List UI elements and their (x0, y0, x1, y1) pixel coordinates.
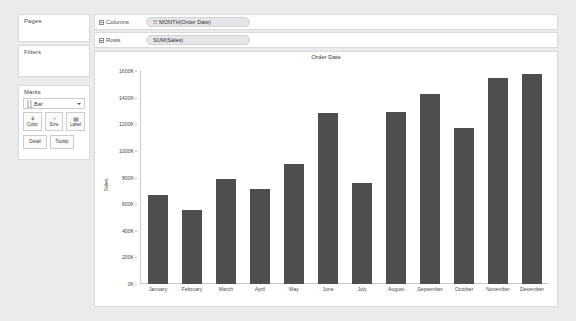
rows-shelf[interactable]: Rows SUM(Sales) (94, 32, 558, 48)
bar-december[interactable] (522, 74, 541, 284)
bar-october[interactable] (454, 128, 473, 284)
marks-card-title: Marks (19, 86, 89, 95)
pill-sum-sales-label: SUM(Sales) (153, 37, 183, 43)
pill-month-order-date-label: MONTH(Order Date) (159, 19, 211, 25)
rows-grid-icon (99, 38, 104, 43)
bar-january[interactable] (148, 195, 167, 284)
x-axis-tick-label: July (345, 286, 379, 298)
bar-slot (243, 71, 277, 284)
x-axis-tick-label: May (277, 286, 311, 298)
x-axis-tick-label: January (141, 286, 175, 298)
columns-shelf-label: Columns (106, 19, 129, 25)
color-button[interactable]: ⚘ Color (23, 112, 42, 131)
y-axis-tick-label: 1000K (119, 148, 134, 154)
pill-sum-sales[interactable]: SUM(Sales) (146, 35, 250, 45)
calendar-pill-icon: ☷ (153, 19, 157, 25)
x-axis-tick-label: August (379, 286, 413, 298)
filters-card[interactable]: Filters (18, 45, 90, 77)
mark-type-select[interactable]: ⎣⎣ Bar (23, 98, 85, 109)
bar-slot (515, 71, 549, 284)
bar-slot (209, 71, 243, 284)
bar-slot (141, 71, 175, 284)
y-axis-tick-label: 200K (122, 254, 134, 260)
y-axis-tick-label: 0K (128, 281, 134, 287)
size-button[interactable]: ◔ Size (45, 112, 64, 131)
color-palette-icon: ⚘ (30, 116, 35, 122)
rows-shelf-label: Rows (106, 37, 121, 43)
bar-slot (481, 71, 515, 284)
bar-march[interactable] (216, 179, 235, 284)
y-axis-ticks: 0K200K400K600K800K1000K1200K1400K1600K (105, 71, 137, 284)
marks-card[interactable]: Marks ⎣⎣ Bar ⚘ Color ◔ Size ▤ Label Deta… (18, 85, 90, 160)
detail-button-label: Detail (29, 139, 41, 144)
y-axis-tick-label: 1400K (119, 95, 134, 101)
marks-button-row-secondary: Detail Tooltip (19, 131, 89, 149)
color-button-label: Color (27, 122, 38, 127)
columns-shelf-label-group: Columns (99, 19, 141, 25)
plot-area: Sales 0K200K400K600K800K1000K1200K1400K1… (95, 63, 557, 306)
size-button-label: Size (50, 122, 59, 127)
detail-button[interactable]: Detail (23, 135, 47, 149)
bar-series (141, 71, 549, 284)
chart-title: Order Date (95, 52, 557, 62)
label-button[interactable]: ▤ Label (66, 112, 85, 131)
bar-slot (277, 71, 311, 284)
y-axis-tick-label: 1600K (119, 68, 134, 74)
label-icon: ▤ (73, 116, 79, 122)
label-button-label: Label (70, 122, 81, 127)
pages-card-title: Pages (19, 15, 89, 24)
x-axis-tick-label: September (413, 286, 447, 298)
marks-button-row-primary: ⚘ Color ◔ Size ▤ Label (19, 109, 89, 131)
x-axis-tick-label: October (447, 286, 481, 298)
bar-slot (175, 71, 209, 284)
bar-june[interactable] (318, 113, 337, 284)
bar-slot (311, 71, 345, 284)
x-axis-tick-label: December (515, 286, 549, 298)
pill-month-order-date[interactable]: ☷ MONTH(Order Date) (146, 17, 250, 27)
bar-february[interactable] (182, 210, 201, 284)
x-axis-tick-label: June (311, 286, 345, 298)
bar-slot (413, 71, 447, 284)
x-axis-tick-label: March (209, 286, 243, 298)
tooltip-button-label: Tooltip (55, 139, 68, 144)
bar-slot (447, 71, 481, 284)
bar-slot (379, 71, 413, 284)
x-axis-tick-label: November (481, 286, 515, 298)
y-axis-tick-label: 800K (122, 175, 134, 181)
columns-shelf[interactable]: Columns ☷ MONTH(Order Date) (94, 14, 558, 30)
chevron-down-icon[interactable] (77, 103, 81, 105)
filters-card-title: Filters (19, 46, 89, 55)
rows-shelf-label-group: Rows (99, 37, 141, 43)
viz-canvas[interactable]: Order Date Sales 0K200K400K600K800K1000K… (94, 51, 558, 307)
bar-may[interactable] (284, 164, 303, 284)
bar-august[interactable] (386, 112, 405, 284)
x-axis-tick-label: February (175, 286, 209, 298)
size-icon: ◔ (52, 116, 56, 122)
bar-slot (345, 71, 379, 284)
pages-card[interactable]: Pages (18, 14, 90, 42)
tooltip-button[interactable]: Tooltip (50, 135, 74, 149)
y-axis-tick-label: 1200K (119, 121, 134, 127)
x-axis-ticks: JanuaryFebruaryMarchAprilMayJuneJulyAugu… (141, 286, 549, 298)
y-axis-tick-label: 400K (122, 228, 134, 234)
x-axis-tick-label: April (243, 286, 277, 298)
bar-july[interactable] (352, 183, 371, 284)
bar-chart-icon: ⎣⎣ (27, 100, 32, 107)
bar-september[interactable] (420, 94, 439, 284)
columns-grid-icon (99, 20, 104, 25)
mark-type-value: Bar (34, 101, 43, 107)
bar-april[interactable] (250, 189, 269, 284)
bar-november[interactable] (488, 78, 507, 284)
y-axis-tick-label: 600K (122, 201, 134, 207)
